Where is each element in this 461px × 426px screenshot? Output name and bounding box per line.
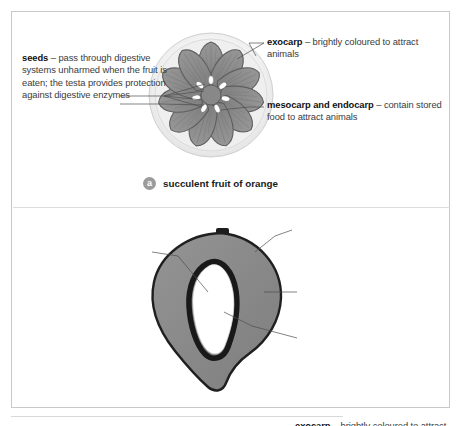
mango-cross-section-illustration xyxy=(12,208,451,408)
label-orange-mesocarp-endocarp: mesocarp and endocarp – contain stored f… xyxy=(267,99,452,124)
label-dash: – xyxy=(374,99,384,110)
caption-panel-a: a succulent fruit of orange xyxy=(143,177,278,190)
page-rule xyxy=(11,416,343,417)
label-orange-seeds: seeds – pass through digestive systems u… xyxy=(22,52,170,102)
label-term: exocarp xyxy=(267,36,302,47)
label-term: seeds xyxy=(22,52,48,63)
panel-badge-a: a xyxy=(143,177,156,190)
orange-core-shape xyxy=(201,85,221,105)
label-term: mesocarp and endocarp xyxy=(267,99,374,110)
label-dash: – xyxy=(330,420,340,426)
panel-orange: seeds – pass through digestive systems u… xyxy=(12,12,451,208)
label-mango-exocarp: exocarp – brightly coloured to attract a… xyxy=(295,420,460,426)
figure-frame: seeds – pass through digestive systems u… xyxy=(11,11,450,408)
panel-mango: seed – discarded when the fruit is eaten… xyxy=(12,208,451,408)
label-orange-exocarp: exocarp – brightly coloured to attract a… xyxy=(267,36,447,61)
label-dash: – xyxy=(48,52,58,63)
caption-text: succulent fruit of orange xyxy=(163,178,278,189)
label-dash: – xyxy=(302,36,312,47)
label-term: exocarp xyxy=(295,420,330,426)
